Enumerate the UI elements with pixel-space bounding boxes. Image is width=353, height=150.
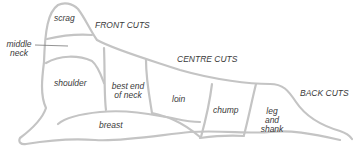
loin-chump-divider — [201, 84, 212, 137]
centre-cuts-label: CENTRE CUTS — [177, 54, 237, 64]
middle-neck-pointer — [35, 45, 68, 46]
carcass-outline — [19, 3, 352, 144]
scrag-divider — [47, 35, 92, 39]
cut-breast: breast — [99, 121, 123, 130]
cut-best-end-of-neck: best end of neck — [105, 82, 151, 100]
cut-loin: loin — [172, 95, 185, 104]
back-cuts-label: BACK CUTS — [300, 88, 349, 98]
chump-bottom-divider — [200, 136, 244, 138]
lamb-diagram — [0, 0, 353, 150]
loin-text: loin — [172, 94, 185, 104]
shoulder-text: shoulder — [54, 78, 87, 88]
front-cuts-label: FRONT CUTS — [95, 20, 150, 30]
chump-leg-divider — [244, 84, 256, 135]
shoulder-bestend-divider — [104, 48, 106, 110]
chump-text: chump — [213, 105, 239, 115]
cut-leg-and-shank: leg and shank — [257, 107, 287, 134]
best-end-line2: of neck — [105, 91, 151, 100]
cut-scrag: scrag — [54, 14, 75, 23]
scrag-text: scrag — [54, 13, 75, 23]
cut-chump: chump — [213, 106, 239, 115]
middle-neck-line2: neck — [2, 49, 36, 58]
leg-line3: shank — [257, 125, 287, 134]
breast-text: breast — [99, 120, 123, 130]
cut-shoulder: shoulder — [54, 79, 87, 88]
cut-middle-neck: middle neck — [2, 40, 36, 58]
